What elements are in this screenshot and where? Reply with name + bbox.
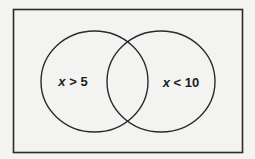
set-label-left: x > 5 bbox=[58, 75, 87, 88]
venn-diagram-graphic bbox=[0, 0, 255, 159]
set-label-right-operator: < bbox=[174, 75, 182, 90]
set-label-right: x < 10 bbox=[163, 76, 200, 89]
set-label-right-value: 10 bbox=[185, 75, 199, 90]
set-label-left-variable: x bbox=[58, 74, 65, 89]
set-circle-left bbox=[41, 31, 148, 132]
universe-rectangle bbox=[14, 10, 243, 153]
venn-diagram: x > 5 x < 10 bbox=[0, 0, 255, 159]
set-label-left-value: 5 bbox=[80, 74, 87, 89]
set-label-left-operator: > bbox=[69, 74, 77, 89]
set-label-right-variable: x bbox=[163, 75, 170, 90]
